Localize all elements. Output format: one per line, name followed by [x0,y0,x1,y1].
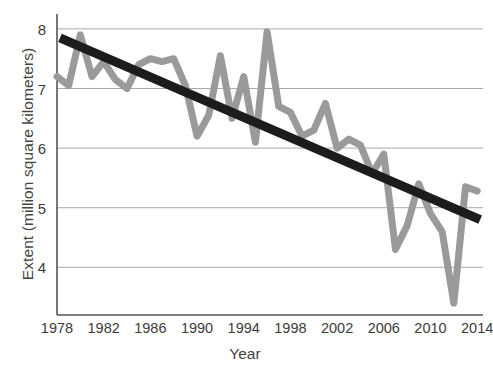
x-tick-label: 1986 [134,320,166,336]
y-tick-label: 5 [38,199,46,216]
x-tick-label: 2002 [321,320,353,336]
y-tick-label: 7 [38,80,46,97]
x-tick-label: 1990 [181,320,213,336]
x-tick-label: 2010 [414,320,446,336]
sea-ice-data-line [57,32,477,303]
x-axis-title: Year [0,345,490,363]
x-tick-label: 1978 [41,320,73,336]
x-axis-tick-labels: 1978198219861990199419982002200620102014 [0,320,490,340]
y-tick-label: 4 [38,259,46,276]
x-tick-label: 1998 [274,320,306,336]
x-tick-label: 1994 [228,320,260,336]
y-tick-label: 6 [38,140,46,157]
x-tick-label: 1982 [88,320,120,336]
x-tick-label: 2006 [368,320,400,336]
x-tick-label: 2014 [461,320,493,336]
y-axis-title: Extent (million square kilometers) [19,19,37,309]
y-tick-label: 8 [38,20,46,37]
